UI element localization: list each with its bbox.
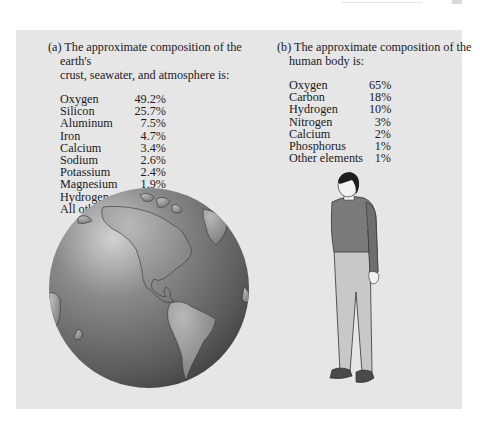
earth-composition-heading: (a) The approximate composition of the e…	[48, 40, 258, 82]
page-number-fragment	[452, 0, 462, 4]
list-item: Nitrogen3%	[289, 116, 477, 128]
element-percent: 1%	[369, 152, 391, 164]
page-header-cutoff	[342, 0, 462, 8]
figure-panel: (a) The approximate composition of the e…	[16, 30, 462, 409]
element-percent: 3%	[369, 116, 391, 128]
human-body-composition-section: (b) The approximate composition of the h…	[277, 40, 477, 164]
section-a-label: (a)	[48, 40, 62, 54]
element-name: Iron	[60, 130, 130, 142]
element-name: Aluminum	[60, 117, 130, 129]
element-name: Hydrogen	[289, 103, 369, 115]
element-percent: 7.5%	[130, 117, 166, 129]
section-b-label: (b)	[277, 40, 291, 54]
standing-person-icon	[312, 172, 392, 387]
heading-b-line2: human body is:	[289, 54, 364, 68]
list-item: Hydrogen10%	[289, 103, 477, 115]
heading-a-line2: crust, seawater, and atmosphere is:	[60, 68, 229, 82]
human-body-composition-heading: (b) The approximate composition of the h…	[277, 40, 477, 68]
list-item: Iron4.7%	[60, 130, 258, 142]
list-item: Aluminum7.5%	[60, 117, 258, 129]
element-percent: 10%	[369, 103, 391, 115]
running-head-fragment	[342, 2, 422, 3]
heading-a-line1: The approximate composition of the earth…	[60, 40, 242, 68]
element-name: Nitrogen	[289, 116, 369, 128]
globe-americas-icon	[48, 187, 250, 389]
element-percent: 4.7%	[130, 130, 166, 142]
heading-b-line1: The approximate composition of the	[294, 40, 471, 54]
list-item: Other elements1%	[289, 152, 477, 164]
element-name: Other elements	[289, 152, 369, 164]
human-body-composition-list: Oxygen65% Carbon18% Hydrogen10% Nitrogen…	[289, 79, 477, 164]
